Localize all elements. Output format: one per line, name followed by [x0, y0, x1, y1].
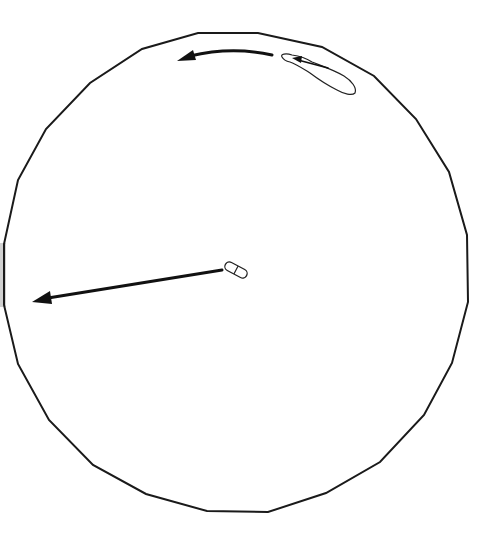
short-curved-arrowhead [177, 50, 196, 61]
object-heading-arrowhead [292, 56, 302, 63]
long-arrowhead [32, 291, 52, 304]
short-curved-arrow-shaft [190, 51, 272, 56]
center-object [223, 260, 248, 279]
long-arrow-shaft [48, 270, 222, 298]
diagram-canvas [0, 0, 498, 545]
object-heading-arrow-shaft [298, 60, 328, 68]
